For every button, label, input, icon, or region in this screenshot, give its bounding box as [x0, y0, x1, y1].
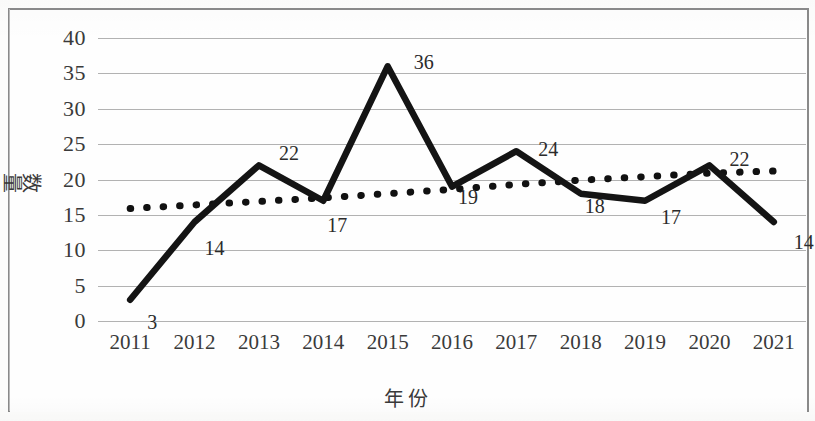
data-point-label: 14 [794, 230, 814, 253]
gridline [98, 321, 806, 322]
data-point-label: 17 [327, 213, 347, 236]
y-tick-label: 0 [40, 308, 86, 334]
x-tick-label: 2014 [302, 330, 344, 355]
data-point-label: 14 [205, 236, 225, 259]
y-axis-title: 数量 [4, 168, 42, 197]
x-tick-label: 2020 [688, 330, 730, 355]
y-tick-label: 25 [40, 131, 86, 157]
x-tick-label: 2016 [431, 330, 473, 355]
x-tick-label: 2011 [110, 330, 151, 355]
y-tick-label: 20 [40, 167, 86, 193]
x-axis-tick-labels: 2011201220132014201520162017201820192020… [98, 330, 806, 364]
x-tick-label: 2018 [560, 330, 602, 355]
y-tick-label: 35 [40, 60, 86, 86]
x-tick-label: 2015 [367, 330, 409, 355]
y-tick-label: 30 [40, 96, 86, 122]
x-tick-label: 2017 [495, 330, 537, 355]
y-axis-tick-labels: 4035302520151050 [40, 38, 86, 321]
y-tick-label: 5 [40, 273, 86, 299]
x-tick-label: 2019 [624, 330, 666, 355]
data-point-label: 22 [279, 142, 299, 165]
data-point-label: 19 [458, 185, 478, 208]
y-tick-label: 15 [40, 202, 86, 228]
x-axis-title: 年份 [0, 383, 815, 412]
x-tick-label: 2012 [174, 330, 216, 355]
series-lines [98, 38, 806, 321]
data-point-label: 24 [538, 138, 558, 161]
data-point-label: 36 [414, 51, 434, 74]
data-point-label: 17 [661, 205, 681, 228]
data-point-label: 18 [585, 194, 605, 217]
y-tick-label: 10 [40, 237, 86, 263]
data-line-solid [130, 66, 774, 299]
x-tick-label: 2021 [753, 330, 795, 355]
data-point-label: 22 [729, 148, 749, 171]
y-tick-label: 40 [40, 25, 86, 51]
chart-figure: 4035302520151050 数量 31422173619241817221… [0, 0, 815, 421]
plot-area: 314221736192418172214 [98, 38, 806, 321]
x-tick-label: 2013 [238, 330, 280, 355]
